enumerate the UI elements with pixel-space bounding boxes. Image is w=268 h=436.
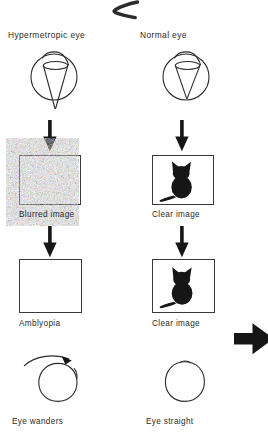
image-label-blurred: Blurred image <box>19 211 75 219</box>
image-label-amblyopia: Amblyopia <box>19 320 60 328</box>
flow-arrow-down-left-2 <box>42 226 58 258</box>
flow-arrow-down-right-2 <box>174 226 190 258</box>
normal-eye-diagram <box>156 46 220 112</box>
image-box-clear-1 <box>152 155 214 205</box>
clear-cat-figure <box>153 260 214 312</box>
eye-wanders-diagram <box>22 352 98 410</box>
outcome-label-eye-straight: Eye straight <box>146 418 193 426</box>
image-label-clear-1: Clear image <box>152 211 200 219</box>
column-heading-left: Hypermetropic eye <box>8 31 85 39</box>
blurred-cat-figure <box>20 156 80 204</box>
flow-arrow-down-right-1 <box>174 120 190 152</box>
image-box-blurred <box>19 155 81 205</box>
ink-stroke-mark <box>102 0 166 26</box>
eye-straight-diagram <box>152 352 222 410</box>
clear-cat-figure <box>153 156 213 204</box>
outcome-label-eye-wanders: Eye wanders <box>12 418 63 426</box>
image-label-clear-2: Clear image <box>152 320 200 328</box>
figure-canvas: Hypermetropic eye Normal eye <box>0 0 268 436</box>
flow-arrow-down-left-1 <box>42 120 58 152</box>
column-heading-right: Normal eye <box>140 31 187 39</box>
image-box-clear-2 <box>152 259 215 313</box>
hypermetropic-eye-diagram <box>24 46 88 112</box>
image-box-amblyopia-empty <box>19 259 82 313</box>
continue-right-arrow <box>234 322 268 356</box>
